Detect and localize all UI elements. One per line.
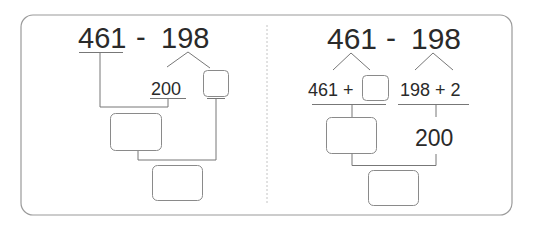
left-expression-b: 198 xyxy=(161,22,209,54)
result-box[interactable] xyxy=(369,171,419,206)
right-panel: 461 - 198 461 + 198 + 2 200 xyxy=(308,21,469,206)
left-expression-a: 461 xyxy=(78,22,126,54)
branch-198-right xyxy=(415,53,453,70)
right-expression-a: 461 xyxy=(327,22,377,55)
branch-198 xyxy=(167,52,210,68)
result-box[interactable] xyxy=(153,166,203,201)
subtraction-decomposition-diagram: 461 - 198 200 461 - 198 461 + 198 + 2 20… xyxy=(0,0,534,229)
connector-to-result xyxy=(352,154,436,166)
right-expression-op: - xyxy=(386,21,396,54)
left-panel: 461 - 198 200 xyxy=(78,21,229,201)
left-branch-label: 461 + xyxy=(308,80,354,100)
right-expression-b: 198 xyxy=(411,22,461,55)
right-result-200: 200 xyxy=(415,125,453,151)
addend-box[interactable] xyxy=(363,76,389,101)
left-expression-op: - xyxy=(136,21,146,53)
small-answer-box[interactable] xyxy=(204,71,229,97)
branch-461 xyxy=(333,53,370,70)
middle-answer-box[interactable] xyxy=(327,118,377,154)
left-decomposed-200: 200 xyxy=(151,79,181,99)
middle-answer-box[interactable] xyxy=(111,114,162,151)
right-branch-label: 198 + 2 xyxy=(400,80,461,100)
